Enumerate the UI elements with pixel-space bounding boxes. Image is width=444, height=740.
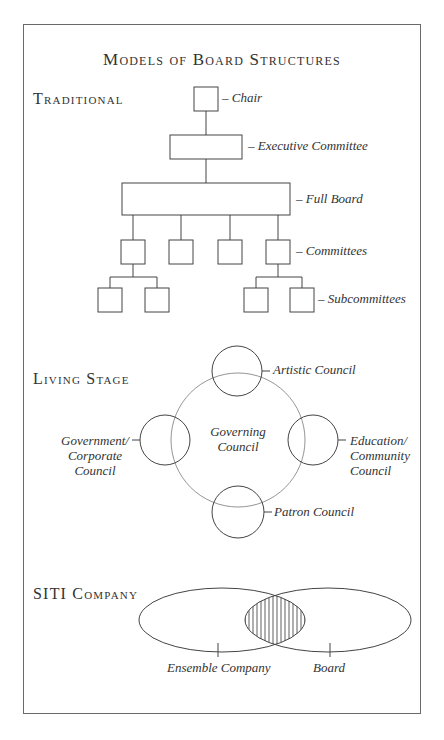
label-executive-committee: – Executive Committee [248, 138, 368, 154]
label-full-board: – Full Board [296, 191, 363, 207]
traditional-tree [98, 87, 314, 312]
label-governing-council: Governing Council [200, 424, 276, 454]
label-subcommittees: – Subcommittees [318, 291, 406, 307]
label-artistic-council: Artistic Council [273, 362, 356, 378]
label-committees: – Committees [296, 243, 367, 259]
label-patron-council: Patron Council [274, 504, 354, 520]
section-heading-living-stage: Living Stage [33, 370, 130, 388]
label-ensemble-company: Ensemble Company [167, 660, 271, 676]
siti-venn [139, 588, 411, 657]
label-government-council: Government/ Corporate Council [56, 433, 134, 478]
label-education-council: Education/ Community Council [350, 433, 410, 478]
section-heading-siti: SITI Company [33, 585, 138, 603]
label-board: Board [313, 660, 345, 676]
label-chair: – Chair [222, 90, 262, 106]
